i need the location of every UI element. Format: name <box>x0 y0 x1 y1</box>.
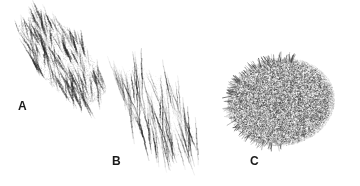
sample-label-a: A <box>18 100 27 112</box>
pencil-texture-canvas <box>0 0 360 186</box>
pencil-technique-figure: A B C <box>0 0 360 186</box>
sample-label-b: B <box>112 155 121 167</box>
sample-label-c: C <box>250 155 259 167</box>
